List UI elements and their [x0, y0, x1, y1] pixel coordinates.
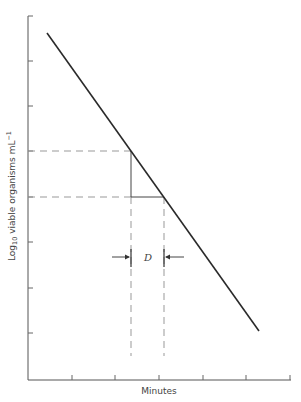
x-axis-label: Minutes: [141, 386, 177, 396]
d-value-label: D: [143, 252, 152, 263]
left-arrowhead-icon: [125, 255, 130, 260]
y-axis-label: Log10 viable organisms mL−1: [5, 131, 19, 261]
x-axis-ticks: [72, 375, 290, 380]
axes: [28, 16, 291, 380]
y-axis-ticks: [28, 16, 33, 333]
survival-curve-line: [47, 33, 259, 331]
right-arrowhead-icon: [165, 255, 170, 260]
d-value-marker: D: [112, 249, 184, 267]
survival-curve-chart: D Minutes Log10 viable organisms mL−1: [0, 0, 301, 402]
